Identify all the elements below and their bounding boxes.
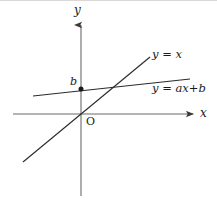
x-axis-label: x [200,107,207,119]
line-affine-label: y = ax+b [152,83,206,95]
y-axis-label: y [74,4,81,16]
intercept-label: b [70,76,77,87]
origin-label: O [86,116,95,127]
line-identity-label: y = x [152,49,182,61]
coordinate-figure: y x b O y = x y = ax+b [0,0,217,204]
y-intercept-point [79,87,84,92]
plot-canvas [0,0,217,204]
line-identity [23,57,150,162]
